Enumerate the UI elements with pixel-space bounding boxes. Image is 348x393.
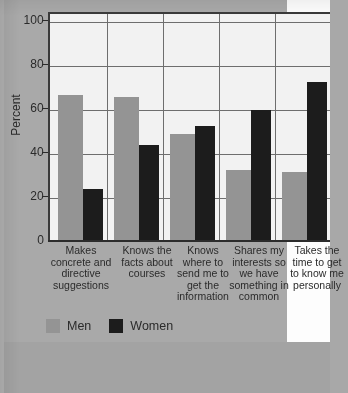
category-label-makes-concrete: Makes concrete and directive suggestions: [46, 245, 116, 291]
bar-men-knows-where: [170, 134, 195, 240]
legend-swatch-women-icon: [109, 319, 123, 333]
y-tick-label-40: 40: [4, 145, 44, 159]
x-axis-baseline: [48, 240, 330, 242]
bar-men-shares-interests: [226, 170, 251, 240]
legend-label-men: Men: [67, 319, 91, 333]
category-label-knows-where: Knows where to send me to get the inform…: [172, 245, 234, 303]
gridline-60: [50, 110, 330, 111]
legend-item-men: Men: [46, 319, 91, 333]
bar-men-knows-facts: [114, 97, 139, 240]
y-tick-label-20: 20: [4, 189, 44, 203]
category-label-takes-time: Takes the time to get to know me persona…: [286, 245, 348, 291]
y-tick-label-80: 80: [4, 57, 44, 71]
bar-women-knows-where: [195, 126, 215, 240]
bar-men-takes-time: [282, 172, 307, 240]
bar-women-takes-time: [307, 82, 327, 240]
y-tick-label-0: 0: [4, 233, 44, 247]
bar-women-knows-facts: [139, 145, 159, 240]
bar-women-shares-interests: [251, 110, 271, 240]
y-axis-label: Percent: [9, 85, 23, 145]
bar-women-makes-concrete: [83, 189, 103, 240]
legend-swatch-men-icon: [46, 319, 60, 333]
legend-item-women: Women: [109, 319, 173, 333]
category-separator-3: [219, 14, 220, 240]
y-tick-label-60: 60: [4, 101, 44, 115]
plot-area: [48, 12, 330, 240]
bar-men-makes-concrete: [58, 95, 83, 240]
y-tick-label-100: 100: [4, 13, 44, 27]
category-label-shares-interests: Shares my interests so we have something…: [228, 245, 290, 303]
gridline-80: [50, 66, 330, 67]
category-label-knows-facts: Knows the facts about courses: [116, 245, 178, 280]
legend-label-women: Women: [130, 319, 173, 333]
category-separator-2: [163, 14, 164, 240]
category-separator-1: [107, 14, 108, 240]
chart-legend: Men Women: [46, 319, 173, 333]
category-separator-4: [275, 14, 276, 240]
gridline-100: [50, 22, 330, 23]
